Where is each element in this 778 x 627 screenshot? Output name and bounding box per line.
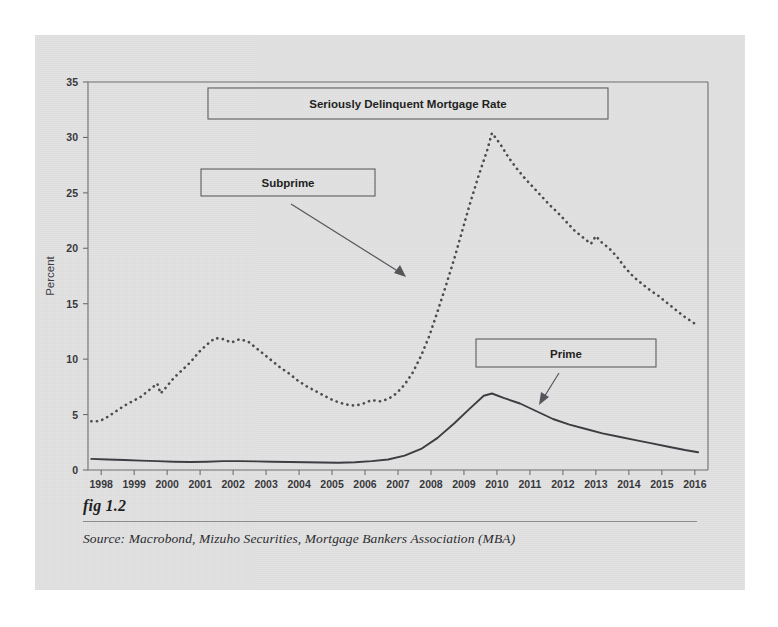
y-tick-label: 25 bbox=[66, 187, 78, 199]
x-tick-label: 1998 bbox=[90, 478, 114, 490]
x-tick-label: 2011 bbox=[519, 478, 542, 490]
callout-prime-arrowhead bbox=[539, 392, 549, 405]
chart-axes bbox=[88, 82, 708, 470]
x-tick-label: 2002 bbox=[221, 478, 245, 490]
x-tick-label: 2010 bbox=[485, 478, 509, 490]
callout-title: Seriously Delinquent Mortgage Rate bbox=[208, 88, 608, 119]
callout-subprime-leader bbox=[291, 204, 404, 275]
figure-number: fig 1.2 bbox=[83, 497, 703, 515]
x-tick-label: 2000 bbox=[155, 478, 179, 490]
y-tick-label: 10 bbox=[66, 353, 78, 365]
x-tick-label: 1999 bbox=[122, 478, 146, 490]
x-tick-label: 2003 bbox=[254, 478, 278, 490]
y-tick-label: 30 bbox=[66, 131, 78, 143]
seriously-delinquent-mortgage-rate-chart: 05101520253035 1998199920002001200220032… bbox=[35, 35, 745, 490]
figure-page: 05101520253035 1998199920002001200220032… bbox=[0, 0, 778, 627]
y-axis: 05101520253035 bbox=[66, 76, 88, 476]
callout-prime-label: Prime bbox=[550, 348, 582, 360]
y-tick-label: 35 bbox=[66, 76, 78, 88]
figure-card: 05101520253035 1998199920002001200220032… bbox=[35, 35, 745, 590]
series-line-prime bbox=[91, 394, 698, 463]
x-tick-label: 2014 bbox=[617, 478, 641, 490]
x-tick-label: 2009 bbox=[452, 478, 476, 490]
x-tick-label: 2004 bbox=[287, 478, 311, 490]
x-tick-label: 2008 bbox=[419, 478, 443, 490]
x-tick-label: 2015 bbox=[650, 478, 674, 490]
axis-frame bbox=[88, 82, 708, 470]
series-line-subprime bbox=[91, 133, 698, 421]
x-tick-label: 2016 bbox=[683, 478, 707, 490]
callout-subprime-label: Subprime bbox=[261, 177, 314, 189]
x-axis: 1998199920002001200220032004200520062007… bbox=[90, 470, 707, 490]
x-tick-label: 2006 bbox=[353, 478, 377, 490]
y-tick-label: 5 bbox=[72, 409, 78, 421]
x-tick-label: 2012 bbox=[551, 478, 575, 490]
x-tick-label: 2013 bbox=[584, 478, 608, 490]
callout-subprime: Subprime bbox=[201, 169, 406, 277]
callout-title-label: Seriously Delinquent Mortgage Rate bbox=[309, 98, 506, 110]
y-tick-label: 15 bbox=[66, 298, 78, 310]
chart-plot-area: 05101520253035 1998199920002001200220032… bbox=[35, 35, 745, 490]
figure-caption-block: fig 1.2 Source: Macrobond, Mizuho Securi… bbox=[83, 497, 703, 547]
figure-source-line: Source: Macrobond, Mizuho Securities, Mo… bbox=[83, 531, 703, 547]
y-axis-title: Percent bbox=[44, 255, 56, 295]
y-tick-label: 20 bbox=[66, 242, 78, 254]
x-tick-label: 2005 bbox=[320, 478, 344, 490]
callout-prime: Prime bbox=[476, 339, 656, 405]
x-tick-label: 2001 bbox=[188, 478, 212, 490]
callout-subprime-arrowhead bbox=[394, 265, 406, 277]
y-tick-label: 0 bbox=[72, 464, 78, 476]
x-tick-label: 2007 bbox=[386, 478, 410, 490]
caption-divider bbox=[83, 521, 697, 522]
